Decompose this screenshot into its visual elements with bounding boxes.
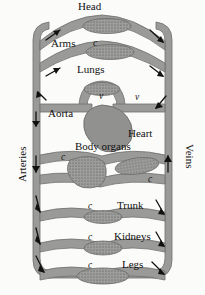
capillary-bed-head: [83, 19, 131, 34]
label-body-organs: Body organs: [75, 141, 131, 152]
label-kidneys: Kidneys: [114, 231, 151, 242]
label-arms: Arms: [51, 38, 75, 49]
label-arteries: Arteries: [16, 147, 28, 182]
circulatory-diagram: Head Arms Lungs Aorta Heart Body organs …: [0, 0, 205, 295]
label-heart: Heart: [128, 128, 152, 139]
capillary-label-head: c: [93, 39, 97, 49]
label-lungs: Lungs: [77, 64, 105, 75]
label-legs: Legs: [122, 259, 143, 270]
capillary-bed-trunk: [84, 211, 122, 224]
capillary-label-trunk: c: [88, 202, 92, 212]
capillary-label-legs: c: [88, 261, 92, 271]
valve-label-left: v: [99, 92, 103, 102]
capillary-label-kidneys: c: [88, 233, 92, 243]
label-veins: Veins: [184, 144, 196, 168]
label-aorta: Aorta: [48, 108, 73, 119]
label-trunk: Trunk: [117, 200, 144, 211]
capillary-bed-kidneys: [84, 241, 122, 255]
valve-label-right: v: [135, 93, 139, 103]
capillary-bed-body-left: [67, 156, 106, 188]
capillary-label-body-left: c: [61, 153, 65, 163]
capillary-label-body-right: c: [148, 175, 152, 185]
label-head: Head: [78, 1, 101, 12]
capillary-bed-legs: [77, 268, 129, 284]
